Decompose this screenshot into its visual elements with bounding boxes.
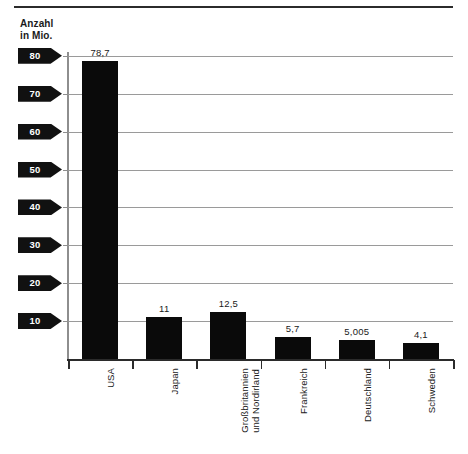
y-axis-tick	[63, 132, 68, 133]
bar-value-label: 4,1	[391, 329, 451, 340]
bar	[403, 343, 439, 359]
top-divider-rule	[14, 6, 453, 8]
y-axis-tick	[63, 170, 68, 171]
y-axis-tick	[63, 283, 68, 284]
x-axis-tick	[389, 360, 391, 369]
bar-value-label: 11	[134, 303, 194, 314]
y-axis-tick	[63, 321, 68, 322]
bar	[82, 61, 118, 359]
x-axis-tick	[132, 360, 134, 369]
gridline	[68, 132, 453, 133]
x-axis-category-label: USA	[105, 368, 116, 388]
y-axis-tag-80: 80	[18, 48, 62, 64]
plot-area: 78,71112,55,75,0054,1	[68, 52, 453, 360]
bar	[210, 312, 246, 359]
y-axis-tick	[63, 207, 68, 208]
bar-value-label: 5,7	[263, 323, 323, 334]
x-axis-category-label: Frankreich	[298, 368, 309, 414]
gridline	[68, 245, 453, 246]
x-axis-tick	[196, 360, 198, 369]
gridline	[68, 170, 453, 171]
x-axis-tick	[325, 360, 327, 369]
y-axis-tag-20: 20	[18, 275, 62, 291]
bar-value-label: 12,5	[198, 298, 258, 309]
gridline	[68, 207, 453, 208]
y-axis-tag-50: 50	[18, 162, 62, 178]
gridline	[68, 321, 453, 322]
x-axis-category-label: Japan	[169, 368, 180, 394]
bar-value-label: 5,005	[327, 326, 387, 337]
y-axis-tag-30: 30	[18, 237, 62, 253]
y-axis-tick	[63, 245, 68, 246]
bar	[339, 340, 375, 359]
gridline	[68, 283, 453, 284]
y-axis-tag-70: 70	[18, 86, 62, 102]
x-axis-category-label: Deutschland	[362, 368, 373, 422]
y-axis-tick	[63, 56, 68, 57]
y-axis-tick	[63, 94, 68, 95]
bar	[146, 317, 182, 359]
x-axis-category-label: Schweden	[426, 368, 437, 413]
y-axis-tag-60: 60	[18, 124, 62, 140]
bar	[275, 337, 311, 359]
y-axis-title: Anzahl in Mio.	[20, 18, 53, 42]
y-axis-tag-40: 40	[18, 199, 62, 215]
x-axis-tick-start	[68, 360, 70, 369]
x-axis-tick-end	[453, 360, 455, 369]
x-axis-category-label: Großbritannien und Nordirland	[239, 368, 261, 433]
gridline	[68, 94, 453, 95]
bar-value-label: 78,7	[70, 47, 130, 58]
y-axis-tag-10: 10	[18, 313, 62, 329]
